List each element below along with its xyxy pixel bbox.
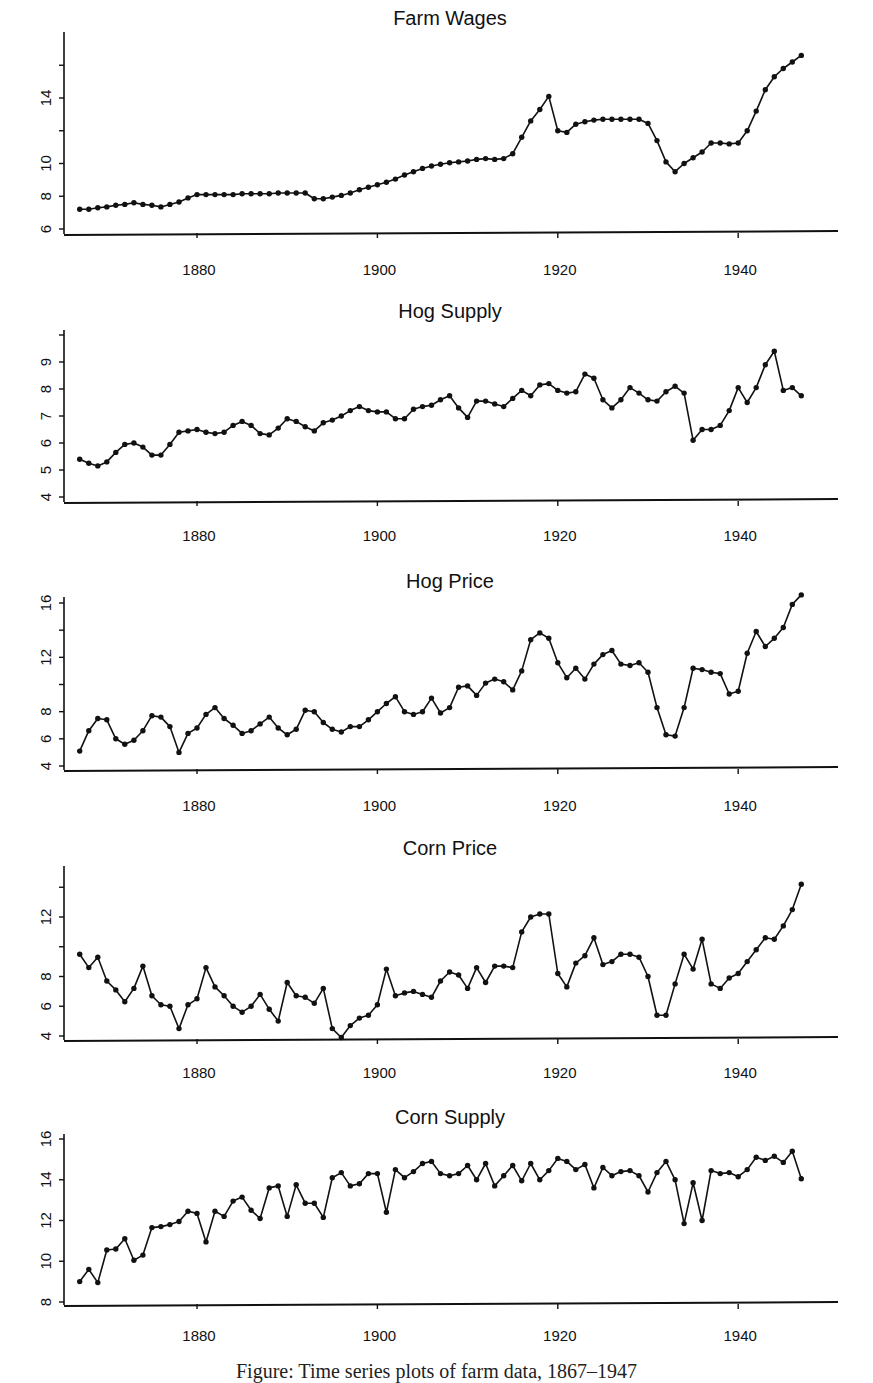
y-tick-label: 4 (37, 493, 54, 501)
data-point-marker (149, 1225, 154, 1230)
data-point-marker (420, 166, 425, 171)
data-point-marker (384, 180, 389, 185)
data-point-marker (447, 1173, 452, 1178)
data-point-marker (420, 709, 425, 714)
y-tick-label: 6 (37, 1002, 54, 1010)
data-point-marker (95, 1280, 100, 1285)
data-point-marker (357, 187, 362, 192)
data-point-marker (77, 748, 82, 753)
data-point-marker (212, 431, 217, 436)
data-point-marker (564, 675, 569, 680)
data-point-marker (573, 1167, 578, 1172)
data-point-marker (474, 965, 479, 970)
data-point-marker (339, 1035, 344, 1040)
data-point-marker (736, 1174, 741, 1179)
data-point-marker (799, 882, 804, 887)
data-point-marker (474, 693, 479, 698)
data-point-marker (456, 405, 461, 410)
data-point-marker (654, 1013, 659, 1018)
data-point-marker (212, 705, 217, 710)
data-point-marker (772, 636, 777, 641)
data-point-marker (465, 158, 470, 163)
data-point-marker (176, 430, 181, 435)
data-point-marker (140, 444, 145, 449)
data-point-marker (122, 1236, 127, 1241)
data-point-marker (492, 963, 497, 968)
data-point-marker (727, 408, 732, 413)
data-point-marker (185, 195, 190, 200)
data-point-marker (718, 986, 723, 991)
data-point-marker (465, 683, 470, 688)
data-point-marker (519, 929, 524, 934)
data-point-marker (564, 130, 569, 135)
data-point-marker (690, 966, 695, 971)
data-point-marker (681, 705, 686, 710)
x-tick-label: 1880 (182, 1064, 215, 1081)
data-point-marker (627, 1168, 632, 1173)
data-point-marker (483, 398, 488, 403)
data-point-marker (465, 415, 470, 420)
data-point-marker (221, 430, 226, 435)
data-point-marker (510, 1163, 515, 1168)
data-point-marker (113, 736, 118, 741)
data-point-marker (501, 1173, 506, 1178)
data-point-marker (375, 182, 380, 187)
data-point-marker (77, 1279, 82, 1284)
data-point-marker (736, 385, 741, 390)
panel-hog-supply: Hog Supply4567891880190019201940 (37, 300, 838, 544)
data-point-marker (582, 953, 587, 958)
data-point-marker (528, 1161, 533, 1166)
y-tick-label: 16 (37, 595, 54, 612)
data-point-marker (727, 975, 732, 980)
data-point-marker (492, 1183, 497, 1188)
y-tick-label: 6 (37, 225, 54, 233)
data-point-marker (348, 190, 353, 195)
data-point-marker (519, 1178, 524, 1183)
data-point-marker (393, 694, 398, 699)
data-point-marker (321, 986, 326, 991)
data-point-marker (248, 191, 253, 196)
data-point-marker (276, 725, 281, 730)
data-point-marker (618, 397, 623, 402)
data-point-marker (276, 1183, 281, 1188)
data-point-marker (104, 204, 109, 209)
data-point-marker (203, 192, 208, 197)
data-point-marker (303, 995, 308, 1000)
data-point-marker (239, 1010, 244, 1015)
data-point-marker (420, 1161, 425, 1166)
data-point-marker (718, 423, 723, 428)
data-point-marker (429, 1159, 434, 1164)
data-point-marker (492, 401, 497, 406)
data-point-marker (528, 118, 533, 123)
data-point-marker (285, 1214, 290, 1219)
data-point-marker (438, 162, 443, 167)
data-point-marker (465, 1163, 470, 1168)
data-point-marker (546, 1168, 551, 1173)
data-point-marker (483, 680, 488, 685)
data-point-marker (663, 1013, 668, 1018)
data-point-marker (582, 119, 587, 124)
data-point-marker (501, 404, 506, 409)
data-point-marker (609, 648, 614, 653)
data-point-marker (194, 1211, 199, 1216)
data-point-marker (267, 432, 272, 437)
data-point-marker (285, 980, 290, 985)
data-point-marker (294, 1182, 299, 1187)
x-tick-label: 1900 (363, 527, 396, 544)
data-point-marker (384, 701, 389, 706)
x-tick-label: 1940 (724, 261, 757, 278)
data-point-marker (140, 202, 145, 207)
data-point-marker (591, 376, 596, 381)
data-point-marker (257, 721, 262, 726)
data-point-marker (176, 199, 181, 204)
data-point-marker (763, 1158, 768, 1163)
y-tick-label: 8 (37, 1298, 54, 1306)
data-point-marker (95, 205, 100, 210)
data-point-marker (591, 935, 596, 940)
data-point-marker (546, 381, 551, 386)
data-point-marker (636, 660, 641, 665)
data-point-marker (77, 207, 82, 212)
data-point-marker (348, 408, 353, 413)
data-point-marker (708, 670, 713, 675)
data-point-marker (708, 427, 713, 432)
